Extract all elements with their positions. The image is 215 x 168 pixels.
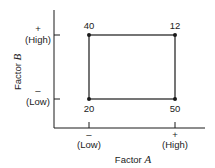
x-axis-title: Factor A (115, 154, 151, 165)
design-rectangle (89, 35, 175, 99)
y-axis-title: Factor B (11, 54, 23, 90)
value-high-low: 50 (170, 104, 181, 114)
y-axis-title-text: Factor (12, 63, 23, 90)
point-high-high (173, 33, 177, 37)
y-axis-title-var: B (11, 54, 23, 61)
value-low-low: 20 (84, 104, 95, 114)
y-high-label: (High) (25, 35, 51, 45)
point-low-low (87, 97, 91, 101)
value-low-high: 40 (84, 21, 95, 31)
x-high-label: (High) (162, 140, 188, 150)
point-high-low (173, 97, 177, 101)
value-high-high: 12 (170, 21, 181, 31)
point-low-high (87, 33, 91, 37)
x-axis-title-text: Factor (115, 154, 142, 165)
x-low-label: (Low) (77, 140, 101, 150)
x-axis-title-var: A (144, 153, 151, 165)
y-low-sign: – (35, 86, 40, 96)
y-high-sign: + (35, 24, 41, 34)
y-low-label: (Low) (26, 97, 50, 107)
